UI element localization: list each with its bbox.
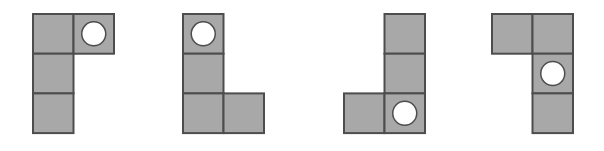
puzzle-cell[interactable]: [385, 93, 426, 133]
cell-square: [33, 54, 74, 94]
cell-square: [33, 14, 74, 54]
cell-square: [183, 93, 224, 133]
cell-marker-circle: [191, 22, 215, 46]
puzzle-cell[interactable]: [74, 14, 115, 54]
puzzle-cell[interactable]: [344, 93, 385, 133]
puzzle-cell[interactable]: [385, 14, 426, 54]
puzzle-cell[interactable]: [183, 54, 224, 94]
puzzle-cell[interactable]: [533, 54, 574, 94]
l-shape-rotation-1[interactable]: [33, 14, 114, 133]
cell-square: [33, 93, 74, 133]
cell-square: [224, 93, 265, 133]
puzzle-cell[interactable]: [492, 14, 533, 54]
cell-square: [533, 93, 574, 133]
l-shape-rotation-2[interactable]: [183, 14, 264, 133]
puzzle-cell[interactable]: [385, 54, 426, 94]
l-shape-rotation-3[interactable]: [344, 14, 425, 133]
puzzle-cell[interactable]: [224, 93, 265, 133]
puzzle-cell[interactable]: [33, 93, 74, 133]
puzzle-cell[interactable]: [533, 93, 574, 133]
figures-svg: [0, 0, 604, 151]
puzzle-cell[interactable]: [183, 14, 224, 54]
cell-square: [385, 14, 426, 54]
cell-square: [385, 54, 426, 94]
cell-square: [492, 14, 533, 54]
puzzle-cell[interactable]: [33, 54, 74, 94]
puzzle-cell[interactable]: [33, 14, 74, 54]
cell-square: [533, 14, 574, 54]
cell-square: [183, 54, 224, 94]
cell-square: [344, 93, 385, 133]
cell-marker-circle: [541, 62, 565, 86]
figures-layer: [0, 0, 604, 151]
cell-marker-circle: [82, 22, 106, 46]
cell-marker-circle: [393, 101, 417, 125]
puzzle-cell[interactable]: [533, 14, 574, 54]
l-shape-rotation-4[interactable]: [492, 14, 573, 133]
puzzle-cell[interactable]: [183, 93, 224, 133]
shape-puzzle-canvas: [0, 0, 604, 151]
